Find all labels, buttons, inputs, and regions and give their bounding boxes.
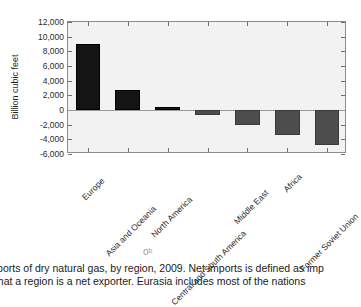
y-axis-tick	[68, 125, 72, 126]
y-axis-tick-label: 12,000	[38, 18, 64, 27]
y-axis-tick	[68, 66, 72, 67]
y-axis-tick-right	[341, 22, 345, 23]
x-axis-tick	[327, 148, 328, 152]
x-axis-tick	[208, 148, 209, 152]
x-axis-category-africa: Africa	[298, 157, 319, 178]
x-axis-tick-top	[88, 22, 89, 26]
y-axis-tick-label: 2,000	[43, 91, 64, 100]
y-axis-tick-right	[341, 154, 345, 155]
x-axis-tick	[247, 148, 248, 152]
y-axis-tick-label: 4,000	[43, 76, 64, 85]
y-axis-tick-right	[341, 139, 345, 140]
y-axis-tick-label: 6,000	[43, 62, 64, 71]
y-axis-tick-right	[341, 66, 345, 67]
y-axis-tick-label: -6,000	[40, 150, 64, 159]
y-axis-tick	[68, 81, 72, 82]
y-axis-tick	[68, 51, 72, 52]
y-axis-tick-label: -4,000	[40, 135, 64, 144]
y-axis-tick-label: 0	[59, 106, 64, 115]
y-axis-tick	[68, 37, 72, 38]
x-axis-category-europe: Europe	[100, 157, 125, 182]
y-axis-title: Billion cubic feet	[11, 54, 20, 119]
y-axis-tick	[68, 139, 72, 140]
bar-africa	[275, 110, 300, 135]
figure-caption: imports of dry natural gas, by region, 2…	[0, 262, 361, 288]
y-axis-tick-label: 10,000	[38, 32, 64, 41]
plot-area: 12,00010,0008,0006,0004,0002,0000-2,000-…	[68, 22, 345, 152]
caption-line-1: imports of dry natural gas, by region, 2…	[0, 262, 361, 275]
x-axis-tick-top	[327, 22, 328, 26]
y-axis-tick-right	[341, 95, 345, 96]
x-axis-tick-top	[128, 22, 129, 26]
bar-central-and-south-america	[195, 110, 220, 115]
y-axis-tick	[68, 95, 72, 96]
x-axis-tick	[287, 148, 288, 152]
y-axis-tick	[68, 22, 72, 23]
plot-frame: 12,00010,0008,0006,0004,0002,0000-2,000-…	[67, 21, 346, 153]
bar-north-america	[155, 107, 180, 110]
page-artifact-glyph: oᵇ	[143, 247, 152, 257]
caption-line-2: tes that a region is a net exporter. Eur…	[0, 275, 361, 288]
x-axis-tick-top	[208, 22, 209, 26]
y-axis-tick-right	[341, 51, 345, 52]
y-axis-tick	[68, 154, 72, 155]
y-axis-tick-label: -2,000	[40, 120, 64, 129]
y-axis-tick-right	[341, 125, 345, 126]
y-axis-tick-right	[341, 81, 345, 82]
bar-europe	[76, 44, 101, 110]
x-axis-tick-top	[168, 22, 169, 26]
bar-middle-east	[235, 110, 260, 125]
y-axis-tick-right	[341, 37, 345, 38]
chart-figure: Billion cubic feet 12,00010,0008,0006,00…	[0, 0, 361, 248]
y-axis-tick-label: 8,000	[43, 47, 64, 56]
bar-former-soviet-union	[315, 110, 340, 145]
x-axis-tick-top	[247, 22, 248, 26]
x-axis-category-label: Europe	[81, 176, 106, 201]
bar-asia-and-oceania	[115, 90, 140, 110]
x-axis-tick	[168, 148, 169, 152]
x-axis-tick	[88, 148, 89, 152]
x-axis-category-former-soviet-union: Former Soviet Union	[354, 157, 361, 218]
x-axis-tick	[128, 148, 129, 152]
x-axis-tick-top	[287, 22, 288, 26]
